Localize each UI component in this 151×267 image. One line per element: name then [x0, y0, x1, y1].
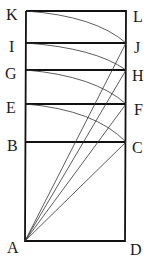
label-B: B: [7, 137, 18, 154]
ray-AC: [25, 142, 126, 241]
label-L: L: [133, 8, 143, 25]
arc-K-J: [26, 11, 126, 43]
label-C: C: [132, 139, 143, 156]
label-F: F: [134, 101, 143, 118]
label-D: D: [130, 241, 142, 258]
ray-AF: [25, 104, 126, 241]
arc-E-C: [26, 104, 126, 142]
label-I: I: [9, 38, 14, 55]
label-A: A: [7, 239, 19, 256]
label-K: K: [6, 6, 18, 23]
label-G: G: [5, 65, 17, 82]
geometry-diagram: K L I J G H E F B C A D: [0, 0, 151, 267]
label-E: E: [6, 99, 16, 116]
label-H: H: [132, 67, 144, 84]
arc-G-F: [26, 70, 126, 104]
rectangle-outline: [25, 11, 126, 241]
label-J: J: [134, 39, 140, 56]
ray-AH: [25, 70, 126, 241]
arc-I-H: [26, 43, 126, 70]
